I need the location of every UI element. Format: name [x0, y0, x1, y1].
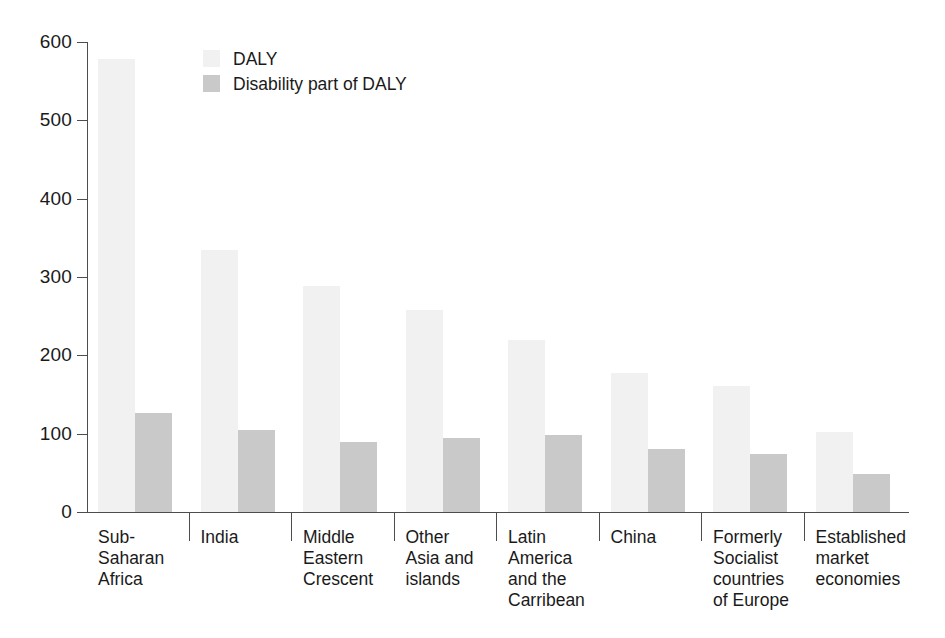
legend-label: DALY — [233, 50, 277, 68]
y-axis-tick-label: 100 — [10, 424, 72, 443]
plot-area — [88, 42, 908, 512]
y-axis-tick-label: 500 — [10, 110, 72, 129]
y-axis-tick — [77, 199, 87, 200]
bar-daly — [406, 310, 443, 512]
bar-daly — [201, 250, 238, 512]
category-label: China — [611, 527, 710, 548]
y-axis-tick — [77, 434, 87, 435]
bar-disability — [853, 474, 890, 512]
bar-disability — [648, 449, 685, 512]
category-label: Latin America and the Carribean — [508, 527, 607, 611]
bar-daly — [816, 432, 853, 512]
bar-daly — [713, 386, 750, 512]
bar-disability — [750, 454, 787, 512]
y-axis-tick-label: 200 — [10, 345, 72, 364]
category-label: India — [201, 527, 300, 548]
y-axis-tick-label: 0 — [10, 502, 72, 521]
y-axis-tick-label: 400 — [10, 189, 72, 208]
category-label: Sub- Saharan Africa — [98, 527, 197, 590]
category-label: Established market economies — [816, 527, 915, 590]
y-axis-tick-label: 600 — [10, 32, 72, 51]
legend-swatch-icon — [203, 50, 220, 67]
legend-label: Disability part of DALY — [233, 75, 407, 93]
bar-disability — [340, 442, 377, 512]
y-axis-tick-label: 300 — [10, 267, 72, 286]
category-label: Middle Eastern Crescent — [303, 527, 402, 590]
bar-daly — [303, 286, 340, 512]
bar-disability — [238, 430, 275, 512]
bar-daly — [611, 373, 648, 512]
chart-legend: DALY Disability part of DALY — [203, 46, 407, 96]
legend-item-daly: DALY — [203, 46, 407, 71]
y-axis-tick — [77, 512, 87, 513]
legend-item-disability: Disability part of DALY — [203, 71, 407, 96]
legend-swatch-icon — [203, 75, 220, 92]
bar-daly — [508, 340, 545, 512]
bar-chart: 0100200300400500600 Sub- Saharan AfricaI… — [0, 0, 945, 638]
category-label: Other Asia and islands — [406, 527, 505, 590]
bar-daly — [98, 59, 135, 512]
bar-disability — [443, 438, 480, 512]
y-axis-tick — [77, 277, 87, 278]
y-axis-tick — [77, 42, 87, 43]
category-label: Formerly Socialist countries of Europe — [713, 527, 812, 611]
bar-disability — [135, 413, 172, 512]
y-axis-tick — [77, 120, 87, 121]
y-axis-tick — [77, 355, 87, 356]
bar-disability — [545, 435, 582, 512]
x-axis-line — [87, 512, 909, 513]
